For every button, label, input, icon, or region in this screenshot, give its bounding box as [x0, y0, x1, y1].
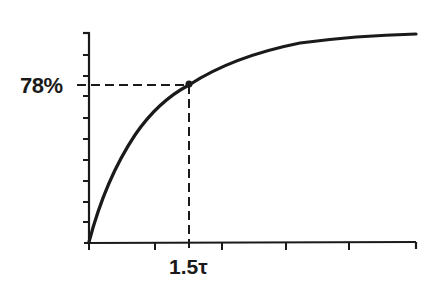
exponential-curve: [89, 34, 416, 242]
exponential-rise-chart: [0, 0, 429, 291]
x-marker-label: 1.5τ: [169, 255, 208, 279]
y-marker-label: 78%: [20, 73, 63, 99]
x-axis: [84, 242, 416, 249]
marked-point: [186, 81, 193, 88]
x-axis-ticks: [89, 243, 349, 250]
